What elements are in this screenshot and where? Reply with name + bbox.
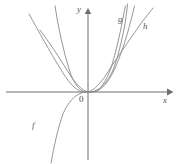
curve-label-h: h bbox=[143, 22, 148, 31]
y-axis-label: y bbox=[77, 5, 81, 14]
curve-g-inner bbox=[55, 6, 125, 92]
curve-label-g: g bbox=[118, 15, 123, 24]
curve-label-f: f bbox=[32, 121, 35, 130]
coordinate-plot bbox=[0, 0, 177, 164]
function-graph-figure: y x 0 f g h bbox=[0, 0, 177, 164]
curve-f bbox=[51, 4, 128, 163]
x-axis-arrow-icon bbox=[167, 89, 174, 96]
y-axis-arrow-icon bbox=[85, 8, 92, 14]
origin-label: 0 bbox=[79, 95, 84, 104]
curve-h bbox=[40, 8, 153, 92]
x-axis-label: x bbox=[163, 96, 167, 105]
